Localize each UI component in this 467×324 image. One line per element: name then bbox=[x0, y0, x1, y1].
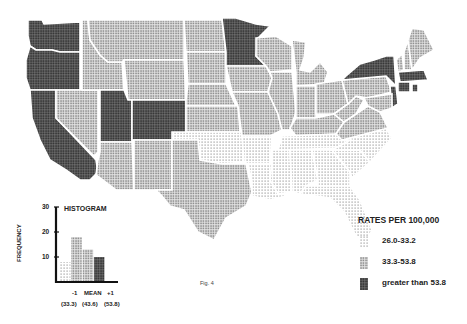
state-north-dakota bbox=[184, 20, 226, 52]
histogram-ylabel: FREQUENCY bbox=[16, 224, 22, 262]
state-connecticut bbox=[398, 82, 410, 92]
legend-swatch-dark bbox=[360, 276, 368, 288]
state-arizona bbox=[96, 142, 134, 190]
state-kansas bbox=[186, 106, 240, 132]
histogram-title: HISTOGRAM bbox=[64, 205, 107, 212]
ytick-30: 30 bbox=[42, 203, 49, 210]
ytick-20: 20 bbox=[42, 228, 49, 235]
xvalue-mean: (43.6) bbox=[82, 301, 98, 307]
state-oregon bbox=[26, 46, 80, 90]
xvalue-plus1: (53.8) bbox=[104, 301, 120, 307]
figure-label: Fig. 4 bbox=[200, 280, 214, 286]
state-south-dakota bbox=[186, 52, 226, 84]
state-utah bbox=[100, 90, 132, 142]
state-washington bbox=[28, 20, 80, 52]
xlabel-minus1: -1 bbox=[72, 290, 77, 296]
legend-item-dark: greater than 53.8 bbox=[360, 276, 446, 288]
histogram-bar bbox=[60, 262, 71, 281]
legend-title: RATES PER 100,000 bbox=[358, 215, 439, 225]
legend-label-medium: 33.3-53.8 bbox=[382, 257, 416, 266]
xlabel-plus1: +1 bbox=[107, 290, 114, 296]
legend-item-medium: 33.3-53.8 bbox=[360, 255, 416, 267]
legend-label-dark: greater than 53.8 bbox=[382, 278, 446, 287]
xvalue-minus1: (33.3) bbox=[61, 301, 77, 307]
state-vermont bbox=[396, 54, 404, 72]
state-maine bbox=[408, 28, 434, 70]
histogram-bar bbox=[83, 250, 94, 282]
legend-item-light: 26.0-33.2 bbox=[360, 234, 416, 246]
state-new-mexico bbox=[134, 140, 172, 190]
legend-swatch-medium bbox=[360, 255, 368, 267]
histogram-bar bbox=[71, 237, 82, 281]
state-kentucky bbox=[290, 114, 344, 136]
ytick-10: 10 bbox=[42, 253, 49, 260]
state-michigan bbox=[292, 40, 328, 86]
state-wyoming bbox=[124, 60, 186, 100]
xlabel-mean: MEAN bbox=[84, 290, 102, 296]
state-montana bbox=[88, 20, 184, 62]
legend-swatch-light bbox=[360, 234, 368, 246]
state-rhode-island bbox=[412, 84, 418, 92]
state-massachusetts bbox=[398, 70, 428, 82]
state-nebraska bbox=[186, 84, 236, 106]
legend-label-light: 26.0-33.2 bbox=[382, 236, 416, 245]
state-arkansas bbox=[242, 136, 272, 164]
histogram-bar bbox=[94, 257, 105, 281]
state-iowa bbox=[226, 66, 272, 92]
state-indiana bbox=[296, 86, 316, 118]
